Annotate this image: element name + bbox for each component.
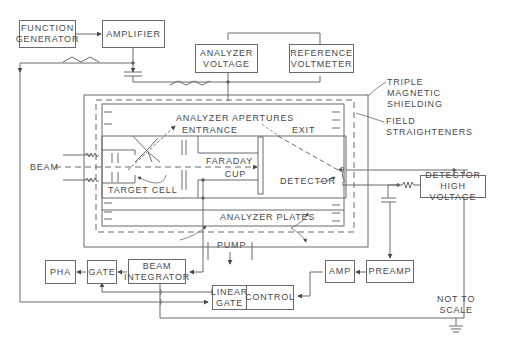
beam-integrator-block: BEAM INTEGRATOR [128,259,186,284]
linear-gate-label-2: GATE [216,298,243,309]
faraday-label-line-1: FARADAY [206,156,253,167]
detector-high-voltage-block: DETECTOR HIGH VOLTAGE [420,175,486,198]
amplifier-block: AMPLIFIER [102,20,165,48]
field-straighteners-line-1: FIELD [386,116,473,127]
field-straighteners-left [104,112,112,219]
analyzer-voltage-label-2: VOLTAGE [203,59,250,70]
preamp-label: PREAMP [369,266,412,277]
pha-label: PHA [50,267,71,278]
triple-shielding-line-1: TRIPLE [387,77,443,88]
linear-gate-label-1: LINEAR [211,287,248,298]
gate-block: GATE [87,260,117,284]
detector-label: DETECTOR [280,176,336,187]
triple-shielding-line-3: SHIELDING [387,99,443,110]
function-generator-block: FUNCTION GENERATOR [19,20,76,48]
pha-block: PHA [45,260,76,284]
faraday-cup-plate [258,137,263,194]
amp-label: AMP [329,266,351,277]
control-block: CONTROL [246,285,294,310]
reference-voltmeter-label-2: VOLTMETER [291,59,353,70]
field-straighteners-right [332,112,340,221]
detector-hv-label-1: DETECTOR [425,170,481,181]
amplifier-label: AMPLIFIER [106,29,161,40]
analyzer-apertures-label: ANALYZER APERTURES [176,113,294,124]
beam-label: BEAM [30,162,59,173]
analyzer-plates-label: ANALYZER PLATES [220,212,315,223]
field-straighteners-line-2: STRAIGHTENERS [386,127,473,138]
triple-shielding-line-2: MAGNETIC [387,88,443,99]
entrance-label: ENTRANCE [182,125,238,136]
not-to-scale-label: NOT TO SCALE [437,294,475,316]
faraday-label-line-2: CUP [206,169,253,180]
beam-integrator-label-1: BEAM [143,261,172,272]
reference-voltmeter-block: REFERENCE VOLTMETER [289,44,354,73]
reference-voltmeter-label-1: REFERENCE [290,48,353,59]
ground-icon [449,318,463,332]
function-generator-label-1: FUNCTION [21,23,74,34]
faraday-cup-label: FARADAY CUP [206,156,253,180]
preamp-block: PREAMP [366,260,414,283]
control-label: CONTROL [245,292,295,303]
detector-hv-label-2: HIGH VOLTAGE [421,181,485,203]
amp-block: AMP [325,260,355,283]
triple-shielding-label: TRIPLE MAGNETIC SHIELDING [387,77,443,110]
pump-label: PUMP [217,240,246,251]
function-generator-label-2: GENERATOR [16,34,79,45]
not-to-scale-line-2: SCALE [437,305,475,316]
beam-integrator-label-2: INTEGRATOR [124,272,190,283]
analyzer-voltage-block: ANALYZER VOLTAGE [195,44,258,73]
target-cell-label: TARGET CELL [108,185,177,196]
gate-label: GATE [88,267,115,278]
linear-gate-block: LINEAR GATE [212,285,247,310]
not-to-scale-line-1: NOT TO [437,294,475,305]
analyzer-voltage-label-1: ANALYZER [200,48,253,59]
field-straighteners-label: FIELD STRAIGHTENERS [386,116,473,138]
triangle-wave-icon [63,57,99,62]
exit-label: EXIT [292,125,315,136]
